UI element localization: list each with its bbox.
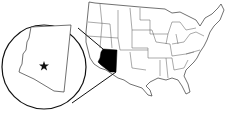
us-outline [86,2,224,96]
us-locator-map [0,0,231,113]
